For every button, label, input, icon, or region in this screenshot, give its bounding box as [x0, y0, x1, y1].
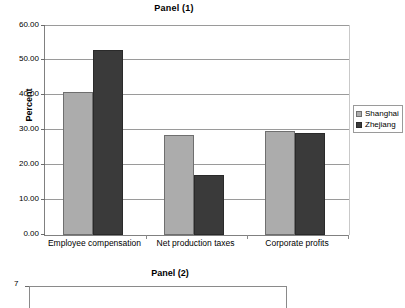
- bar-shanghai-employee-compensation[interactable]: [63, 92, 93, 235]
- y-tick-label-30: 30.00: [1, 125, 39, 133]
- legend-swatch-zhejiang-icon: [356, 122, 362, 128]
- x-tick-mark-3: [348, 235, 349, 239]
- x-label-net-production-taxes: Net production taxes: [145, 238, 246, 248]
- legend-item-shanghai[interactable]: Shanghai: [356, 108, 399, 119]
- legend-item-zhejiang[interactable]: Zhejiang: [356, 119, 399, 130]
- panel-1-legend[interactable]: Shanghai Zhejiang: [353, 105, 403, 133]
- panel-1-plot-area: 60.00 50.00 40.00 30.00 20.00 10.00 0.00: [44, 26, 349, 236]
- y-tick-label-0: 0.00: [1, 230, 39, 238]
- x-label-employee-compensation: Employee compensation: [44, 238, 145, 248]
- plot-right-border: [349, 25, 350, 235]
- x-label-corporate-profits: Corporate profits: [246, 238, 348, 248]
- panel-2-plot-area: [29, 286, 287, 308]
- legend-label-shanghai: Shanghai: [365, 109, 399, 118]
- bar-zhejiang-employee-compensation[interactable]: [93, 50, 123, 235]
- bar-group-employee-compensation: [45, 26, 146, 235]
- panel-2: Panel (2) 7: [0, 258, 405, 308]
- bar-shanghai-net-production-taxes[interactable]: [164, 135, 194, 235]
- legend-label-zhejiang: Zhejiang: [365, 120, 396, 129]
- panel-1: Panel (1) Percent 60.00 50.00 40.00 30.0…: [0, 0, 405, 258]
- panel-2-title: Panel (2): [0, 268, 340, 278]
- y-tick-label-50: 50.00: [1, 55, 39, 63]
- bar-zhejiang-net-production-taxes[interactable]: [194, 175, 224, 235]
- bar-shanghai-corporate-profits[interactable]: [265, 131, 295, 235]
- bar-group-net-production-taxes: [146, 26, 247, 235]
- bar-series-container: [45, 26, 349, 235]
- y-tick-label-10: 10.00: [1, 195, 39, 203]
- chart-page: Panel (1) Percent 60.00 50.00 40.00 30.0…: [0, 0, 405, 308]
- panel-1-x-axis-labels: Employee compensation Net production tax…: [44, 238, 348, 252]
- y-tick-label-20: 20.00: [1, 160, 39, 168]
- legend-swatch-shanghai-icon: [356, 111, 362, 117]
- y-tick-label-60: 60.00: [1, 21, 39, 29]
- panel-2-y-tick-label-7: 7: [14, 280, 18, 288]
- panel-1-title: Panel (1): [0, 3, 348, 13]
- bar-zhejiang-corporate-profits[interactable]: [295, 133, 325, 235]
- bar-group-corporate-profits: [247, 26, 349, 235]
- y-tick-label-40: 40.00: [1, 90, 39, 98]
